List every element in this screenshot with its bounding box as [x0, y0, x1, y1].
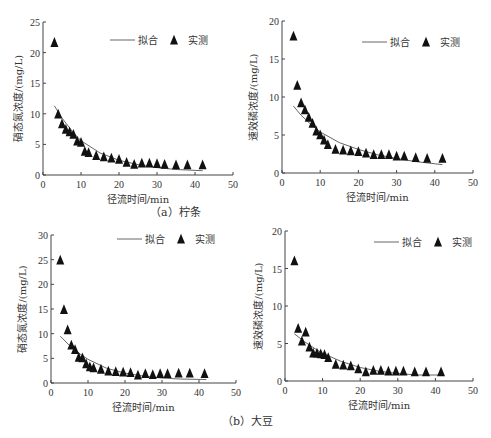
y-tick-label: 10 [38, 329, 48, 340]
x-tick-label: 40 [430, 385, 440, 396]
x-tick-label: 30 [157, 387, 167, 398]
data-point-triangle [289, 31, 297, 41]
data-point-triangle [400, 151, 408, 161]
data-point-triangle [183, 160, 191, 170]
data-point-triangle [290, 255, 298, 265]
data-point-triangle [411, 366, 419, 376]
data-point-triangle [385, 149, 393, 159]
legend-fit-label: 拟合 [390, 36, 410, 48]
chart-b-left: 01020304050051015202530径流时间/min硝态氮浓度/(mg… [16, 230, 241, 413]
y-tick-label: 25 [30, 17, 40, 28]
legend-fit-label: 拟合 [138, 34, 158, 46]
legend-triangle-icon [422, 37, 430, 47]
data-point-triangle [138, 158, 146, 168]
data-point-triangle [97, 364, 105, 374]
y-tick-label: 10 [269, 92, 279, 103]
y-tick-label: 15 [30, 78, 40, 89]
x-tick-label: 0 [283, 385, 288, 396]
data-point-triangle [347, 145, 355, 155]
data-point-triangle [172, 160, 180, 170]
data-point-triangle [127, 367, 135, 377]
legend: 拟合实测 [362, 36, 460, 48]
x-tick-label: 40 [194, 387, 204, 398]
y-tick-label: 20 [272, 226, 282, 237]
data-point-triangle [56, 255, 64, 265]
x-axis-label: 径流时间/min [346, 191, 409, 203]
data-point-triangle [294, 323, 302, 333]
chart-a-left: 010203040500510152025径流时间/min硝态氮浓度/(mg/L… [12, 17, 238, 205]
x-tick-label: 30 [152, 179, 162, 190]
y-axis-label: 速效磷浓度/(mg/L) [247, 53, 259, 140]
y-tick-label: 10 [30, 109, 40, 120]
y-tick-label: 20 [30, 48, 40, 59]
data-point-triangle [422, 366, 430, 376]
y-tick-label: 0 [277, 376, 282, 387]
data-point-triangle [377, 365, 385, 375]
x-tick-label: 20 [114, 179, 124, 190]
y-tick-label: 15 [38, 304, 48, 315]
data-point-triangle [354, 363, 362, 373]
data-point-triangle [399, 366, 407, 376]
data-point-triangle [437, 366, 445, 376]
data-point-triangle [153, 158, 161, 168]
y-tick-label: 20 [269, 16, 279, 27]
data-point-triangle [423, 153, 431, 163]
y-tick-label: 25 [38, 255, 48, 266]
legend-measured-label: 实测 [440, 36, 460, 48]
x-tick-label: 20 [353, 177, 363, 188]
y-tick-label: 15 [269, 54, 279, 65]
x-tick-label: 50 [468, 385, 478, 396]
data-point-triangle [377, 149, 385, 159]
x-tick-label: 10 [315, 177, 325, 188]
data-point-triangle [145, 158, 153, 168]
y-tick-label: 5 [274, 130, 279, 141]
data-point-triangle [175, 368, 183, 378]
y-tick-label: 0 [35, 170, 40, 181]
legend-measured-label: 实测 [452, 236, 472, 248]
data-point-triangle [123, 157, 131, 167]
data-point-triangle [392, 366, 400, 376]
data-point-triangle [302, 327, 310, 337]
x-tick-label: 20 [120, 387, 130, 398]
data-point-triangle [199, 160, 207, 170]
y-tick-label: 5 [277, 339, 282, 350]
data-point-triangle [354, 146, 362, 156]
legend-triangle-icon [170, 35, 178, 45]
data-point-triangle [149, 369, 157, 379]
data-point-triangle [60, 304, 68, 314]
data-point-triangle [130, 159, 138, 169]
data-point-triangle [384, 366, 392, 376]
y-tick-label: 5 [43, 353, 48, 364]
data-point-triangle [186, 368, 194, 378]
x-tick-label: 0 [41, 179, 46, 190]
y-tick-label: 15 [272, 264, 282, 275]
data-point-triangle [54, 109, 62, 119]
x-tick-label: 10 [318, 385, 328, 396]
x-axis-label: 径流时间/min [348, 399, 411, 411]
x-tick-label: 50 [468, 177, 478, 188]
data-point-triangle [339, 145, 347, 155]
data-point-triangle [297, 98, 305, 108]
y-tick-label: 10 [272, 301, 282, 312]
y-tick-label: 0 [43, 378, 48, 389]
y-axis-label: 速效磷浓度/(mg/L) [252, 262, 264, 349]
x-tick-label: 0 [280, 177, 285, 188]
legend: 拟合实测 [117, 233, 215, 245]
y-axis-label: 硝态氮浓度/(mg/L) [16, 265, 28, 352]
chart-a-right: 0102030405005101520径流时间/min速效磷浓度/(mg/L)拟… [247, 16, 478, 203]
data-point-triangle [201, 368, 209, 378]
y-tick-label: 30 [38, 230, 48, 241]
data-point-triangle [50, 37, 58, 47]
data-point-triangle [164, 368, 172, 378]
x-tick-label: 50 [228, 179, 238, 190]
data-point-triangle [293, 80, 301, 90]
caption-b: （b）大豆 [222, 412, 273, 428]
legend-fit-label: 拟合 [145, 233, 165, 245]
x-tick-label: 40 [430, 177, 440, 188]
y-tick-label: 5 [35, 139, 40, 150]
legend-measured-label: 实测 [188, 34, 208, 46]
chart-b-right: 0102030405005101520径流时间/min速效磷浓度/(mg/L)拟… [252, 226, 478, 411]
legend-triangle-icon [434, 237, 442, 247]
legend: 拟合实测 [374, 236, 472, 248]
x-axis-label: 径流时间/min [112, 401, 175, 413]
